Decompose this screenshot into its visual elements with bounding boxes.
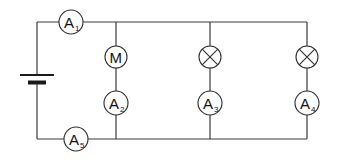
battery-icon xyxy=(20,75,54,83)
ammeter-a5-letter: A xyxy=(69,131,79,148)
ammeter-a3: A 3 xyxy=(198,91,222,115)
ammeter-a1-letter: A xyxy=(64,14,74,31)
lamp-1-icon xyxy=(199,46,221,68)
ammeter-a4: A 4 xyxy=(295,91,319,115)
ammeter-a2: A 2 xyxy=(104,91,128,115)
ammeter-a1: A 1 xyxy=(59,10,83,34)
circuit-diagram: A 1 M A 2 A 3 A 4 A 5 xyxy=(0,0,337,162)
ammeter-a2-subscript: 2 xyxy=(120,105,125,114)
motor-letter: M xyxy=(110,49,123,66)
ammeter-a3-subscript: 3 xyxy=(214,105,219,114)
ammeter-a4-letter: A xyxy=(300,95,310,112)
motor: M xyxy=(105,46,127,68)
ammeter-a1-subscript: 1 xyxy=(75,24,80,33)
ammeter-a2-letter: A xyxy=(109,95,119,112)
lamp-2-icon xyxy=(296,46,318,68)
ammeter-a5: A 5 xyxy=(64,127,88,151)
ammeter-a5-subscript: 5 xyxy=(80,141,85,150)
wires xyxy=(37,22,307,139)
ammeter-a4-subscript: 4 xyxy=(311,105,316,114)
ammeter-a3-letter: A xyxy=(203,95,213,112)
